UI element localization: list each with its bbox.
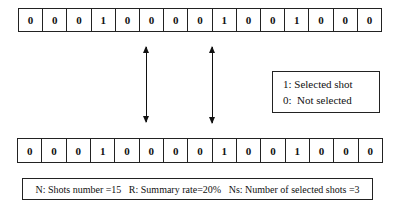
legend-selected: 1: Selected shot: [283, 76, 379, 92]
shot-cell: 1: [285, 9, 309, 31]
bottom-shot-sequence: 0 0 0 1 0 0 0 0 1 0 0 1 0 0 0: [17, 138, 383, 163]
shot-cell: 0: [140, 9, 164, 31]
shot-cell: 0: [237, 139, 261, 162]
double-arrow-icon: [212, 47, 213, 123]
shot-cell: 0: [18, 139, 42, 162]
top-shot-sequence: 0 0 0 1 0 0 0 0 1 0 0 1 0 0 0: [18, 8, 382, 32]
shot-cell: 0: [334, 139, 358, 162]
shot-cell: 0: [164, 139, 188, 162]
shot-cell: 0: [358, 9, 381, 31]
shot-cell: 1: [91, 139, 115, 162]
shot-cell: 0: [43, 9, 67, 31]
shot-cell: 1: [92, 9, 116, 31]
shot-cell: 0: [67, 139, 91, 162]
shot-cell: 0: [261, 9, 285, 31]
shot-cell: 0: [140, 139, 164, 162]
shot-cell: 0: [334, 9, 358, 31]
shot-cell: 0: [19, 9, 43, 31]
shots-number: N: Shots number =15: [35, 184, 121, 195]
double-arrow-icon: [146, 47, 147, 122]
shot-cell: 1: [213, 9, 237, 31]
shot-cell: 0: [188, 139, 212, 162]
shot-cell: 0: [42, 139, 66, 162]
shot-cell: 0: [116, 9, 140, 31]
summary-rate: R: Summary rate=20%: [129, 184, 221, 195]
shot-cell: 0: [261, 139, 285, 162]
summary-box: N: Shots number =15 R: Summary rate=20% …: [22, 178, 373, 200]
shot-cell: 0: [359, 139, 382, 162]
selected-shots-count: Ns: Number of selected shots =3: [229, 184, 360, 195]
shot-cell: 0: [115, 139, 139, 162]
legend-not-selected: 0: Not selected: [283, 92, 379, 108]
legend-box: 1: Selected shot 0: Not selected: [272, 71, 380, 113]
shot-cell: 0: [310, 139, 334, 162]
shot-cell: 0: [188, 9, 212, 31]
shot-cell: 1: [213, 139, 237, 162]
shot-cell: 0: [309, 9, 333, 31]
shot-cell: 0: [237, 9, 261, 31]
shot-cell: 1: [286, 139, 310, 162]
shot-cell: 0: [164, 9, 188, 31]
shot-cell: 0: [67, 9, 91, 31]
